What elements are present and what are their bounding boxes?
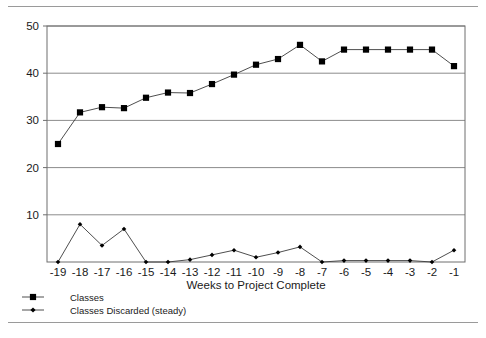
data-point-marker — [430, 260, 435, 265]
x-tick-label: -14 — [160, 266, 177, 278]
data-point-marker — [56, 260, 61, 265]
data-point-marker — [77, 109, 83, 115]
data-point-marker — [143, 95, 149, 101]
x-tick-label: -9 — [273, 266, 283, 278]
x-axis-title: Weeks to Project Complete — [186, 279, 325, 291]
data-point-marker — [232, 248, 237, 253]
data-point-marker — [210, 253, 215, 258]
data-point-marker — [121, 105, 127, 111]
data-point-marker — [187, 90, 193, 96]
x-tick-label: -17 — [94, 266, 111, 278]
data-point-marker — [165, 89, 171, 95]
x-axis-tick-labels: -19-18-17-16-15-14-13-12-11-10-9-8-7-6-5… — [50, 266, 459, 278]
x-tick-label: -4 — [383, 266, 394, 278]
data-point-marker — [276, 250, 281, 255]
data-point-marker — [231, 72, 237, 78]
series-classes — [55, 42, 457, 147]
x-tick-label: -10 — [248, 266, 265, 278]
x-tick-label: -13 — [182, 266, 199, 278]
x-tick-label: -18 — [72, 266, 89, 278]
data-point-marker — [99, 104, 105, 110]
chart-figure: 1020304050 -19-18-17-16-15-14-13-12-11-1… — [0, 0, 486, 338]
x-tick-label: -1 — [449, 266, 459, 278]
data-point-marker — [341, 47, 347, 53]
data-point-marker — [30, 307, 35, 312]
data-point-marker — [363, 47, 369, 53]
data-point-marker — [188, 257, 193, 262]
data-point-marker — [385, 47, 391, 53]
x-tick-label: -2 — [427, 266, 437, 278]
y-gridlines — [47, 26, 465, 215]
data-point-marker — [209, 81, 215, 87]
x-tick-label: -19 — [50, 266, 67, 278]
line-chart-svg: 1020304050 -19-18-17-16-15-14-13-12-11-1… — [0, 0, 486, 338]
x-tick-label: -5 — [361, 266, 371, 278]
data-point-marker — [254, 255, 259, 260]
y-tick-label: 30 — [26, 114, 39, 126]
data-point-marker — [55, 141, 61, 147]
data-point-marker — [297, 42, 303, 48]
plot-frame — [47, 26, 465, 262]
chart-legend: ClassesClasses Discarded (steady) — [22, 292, 186, 316]
data-point-marker — [451, 63, 457, 69]
x-tick-label: -7 — [317, 266, 327, 278]
x-tick-label: -16 — [116, 266, 133, 278]
legend-label: Classes Discarded (steady) — [70, 305, 186, 316]
y-tick-label: 20 — [26, 162, 39, 174]
x-tick-label: -8 — [295, 266, 305, 278]
x-tick-label: -12 — [204, 266, 221, 278]
x-tick-label: -11 — [226, 266, 242, 278]
plot-area-container: 1020304050 -19-18-17-16-15-14-13-12-11-1… — [0, 0, 486, 338]
data-point-marker — [452, 248, 457, 253]
data-point-marker — [275, 56, 281, 62]
x-tick-label: -15 — [138, 266, 155, 278]
legend-item[interactable]: Classes — [22, 292, 104, 303]
x-tick-label: -3 — [405, 266, 415, 278]
data-point-marker — [407, 47, 413, 53]
y-axis-tick-labels: 1020304050 — [26, 20, 39, 221]
y-tick-label: 10 — [26, 209, 39, 221]
data-point-marker — [429, 47, 435, 53]
legend-label: Classes — [70, 292, 104, 303]
data-point-marker — [166, 260, 171, 265]
y-tick-label: 40 — [26, 67, 39, 79]
x-tick-label: -6 — [339, 266, 349, 278]
y-tick-label: 50 — [26, 20, 39, 32]
data-point-marker — [253, 62, 259, 68]
series-classes-discarded — [56, 222, 457, 264]
y-tick-marks — [43, 26, 47, 215]
legend-item[interactable]: Classes Discarded (steady) — [22, 305, 186, 316]
data-point-marker — [319, 58, 325, 64]
data-point-marker — [30, 294, 36, 300]
series-line — [58, 45, 454, 144]
